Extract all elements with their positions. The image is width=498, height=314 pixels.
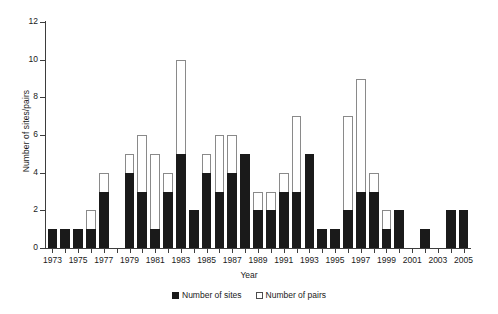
- bar-group: [189, 22, 199, 248]
- bar-group: [266, 22, 276, 248]
- x-axis-tick: [104, 249, 105, 253]
- x-axis-tick: [386, 249, 387, 253]
- bar-sites: [305, 154, 315, 248]
- bar-sites: [189, 210, 199, 248]
- bar-sites: [420, 229, 430, 248]
- bar-sites: [125, 173, 135, 248]
- x-axis-tick: [78, 249, 79, 253]
- x-axis-tick: [335, 249, 336, 253]
- bar-sites: [150, 229, 160, 248]
- bar-sites: [394, 210, 404, 248]
- x-axis-tick: [322, 249, 323, 253]
- x-axis-tick: [91, 249, 92, 253]
- legend-label-pairs: Number of pairs: [266, 290, 326, 300]
- x-axis-tick: [374, 249, 375, 253]
- bar-sites: [215, 192, 225, 249]
- y-axis-tick: [40, 173, 45, 174]
- bar-sites: [48, 229, 58, 248]
- bar-group: [112, 22, 122, 248]
- legend-swatch-sites-icon: [172, 292, 179, 299]
- bar-group: [253, 22, 263, 248]
- bar-sites: [253, 210, 263, 248]
- bar-group: [176, 22, 186, 248]
- bar-sites: [176, 154, 186, 248]
- x-axis-tick: [65, 249, 66, 253]
- x-axis-tick: [464, 249, 465, 253]
- bar-group: [446, 22, 456, 248]
- bar-group: [99, 22, 109, 248]
- x-axis-tick: [232, 249, 233, 253]
- x-axis-tick: [361, 249, 362, 253]
- y-axis-tick: [40, 248, 45, 249]
- x-axis-tick: [130, 249, 131, 253]
- x-axis-tick: [181, 249, 182, 253]
- bar-sites: [73, 229, 83, 248]
- y-axis-tick-label: 8: [16, 92, 38, 101]
- bar-sites: [266, 210, 276, 248]
- bar-group: [163, 22, 173, 248]
- y-axis-tick-label: 12: [16, 17, 38, 26]
- y-axis-tick-label: 0: [16, 243, 38, 252]
- bar-sites: [240, 154, 250, 248]
- bar-group: [330, 22, 340, 248]
- x-axis-tick: [438, 249, 439, 253]
- x-axis-tick: [258, 249, 259, 253]
- bar-sites: [279, 192, 289, 249]
- x-axis-tick: [309, 249, 310, 253]
- bar-group: [73, 22, 83, 248]
- bar-group: [305, 22, 315, 248]
- bar-group: [202, 22, 212, 248]
- bar-sites: [459, 210, 469, 248]
- x-axis-tick: [219, 249, 220, 253]
- bar-sites: [356, 192, 366, 249]
- bar-group: [356, 22, 366, 248]
- y-axis-tick-label: 2: [16, 205, 38, 214]
- bar-group: [150, 22, 160, 248]
- bar-group: [459, 22, 469, 248]
- bar-group: [125, 22, 135, 248]
- bar-sites: [137, 192, 147, 249]
- x-axis-tick: [451, 249, 452, 253]
- bar-group: [317, 22, 327, 248]
- bar-group: [137, 22, 147, 248]
- x-axis-tick: [142, 249, 143, 253]
- bar-sites: [446, 210, 456, 248]
- x-axis-tick: [348, 249, 349, 253]
- x-axis-tick: [412, 249, 413, 253]
- legend-item-pairs: Number of pairs: [256, 290, 326, 300]
- x-axis-tick: [245, 249, 246, 253]
- bar-sites: [163, 192, 173, 249]
- bar-group: [292, 22, 302, 248]
- bar-sites: [60, 229, 70, 248]
- legend-swatch-pairs-icon: [256, 292, 263, 299]
- x-axis-tick: [297, 249, 298, 253]
- x-axis-tick: [399, 249, 400, 253]
- bar-group: [420, 22, 430, 248]
- bar-group: [60, 22, 70, 248]
- x-axis-tick: [207, 249, 208, 253]
- x-axis-title: Year: [0, 270, 498, 280]
- y-axis-tick-label: 4: [16, 168, 38, 177]
- bar-group: [240, 22, 250, 248]
- x-axis-tick-label: 2005: [444, 256, 484, 265]
- x-axis-tick: [117, 249, 118, 253]
- bar-sites: [86, 229, 96, 248]
- x-axis-tick: [425, 249, 426, 253]
- bar-sites: [343, 210, 353, 248]
- legend-item-sites: Number of sites: [172, 290, 242, 300]
- chart-legend: Number of sites Number of pairs: [0, 290, 498, 300]
- bar-group: [343, 22, 353, 248]
- plot-area: [46, 22, 470, 248]
- bar-chart: Number of sites/pairs 024681012 19731975…: [0, 0, 498, 314]
- y-axis-tick: [40, 210, 45, 211]
- bar-sites: [292, 192, 302, 249]
- bar-group: [86, 22, 96, 248]
- bar-sites: [317, 229, 327, 248]
- legend-label-sites: Number of sites: [182, 290, 242, 300]
- bar-sites: [382, 229, 392, 248]
- y-axis-tick-label: 10: [16, 55, 38, 64]
- bar-sites: [227, 173, 237, 248]
- bar-group: [394, 22, 404, 248]
- y-axis-tick-label: 6: [16, 130, 38, 139]
- y-axis-tick: [40, 97, 45, 98]
